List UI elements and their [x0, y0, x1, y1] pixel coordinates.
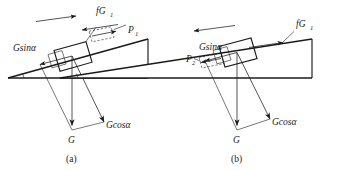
parallelogram-side-2-b	[237, 119, 270, 130]
p1-arrow-a	[92, 31, 116, 36]
label-weight-a: G	[68, 135, 75, 145]
label-gsin-a: Gsinα	[13, 43, 37, 53]
label-gcos-a: Gcosα	[106, 120, 132, 130]
physics-figure: fG 1 P 1 Gsinα Gcosα G (a)	[0, 0, 340, 170]
label-friction-b: fG	[296, 19, 306, 29]
label-weight-b: G	[233, 135, 240, 145]
motion-arrow-b	[194, 26, 235, 32]
label-friction-sub-b: 1	[310, 24, 313, 31]
panel-a: fG 1 P 1 Gsinα Gcosα G (a)	[8, 6, 148, 165]
parallelogram-side-2-a	[72, 122, 104, 130]
label-friction-sub-a: 1	[110, 11, 113, 18]
label-applied-a: P	[127, 25, 134, 35]
label-friction-a: fG	[96, 6, 106, 16]
label-gsin-b: Gsinα	[199, 42, 223, 52]
applied-force-a	[89, 25, 126, 42]
label-applied-sub-a: 1	[135, 30, 138, 37]
label-applied-b: P	[185, 54, 192, 64]
p1-leader-a	[114, 25, 126, 30]
caption-a: (a)	[66, 154, 77, 165]
caption-b: (b)	[231, 154, 242, 165]
motion-arrow-a	[36, 16, 76, 22]
friction-leader-b	[283, 32, 294, 43]
panel-b: fG 1 P 2 Gsinα Gcosα G (b)	[60, 19, 313, 165]
label-gcos-b: Gcosα	[272, 117, 298, 127]
figure-svg: fG 1 P 1 Gsinα Gcosα G (a)	[0, 0, 340, 170]
